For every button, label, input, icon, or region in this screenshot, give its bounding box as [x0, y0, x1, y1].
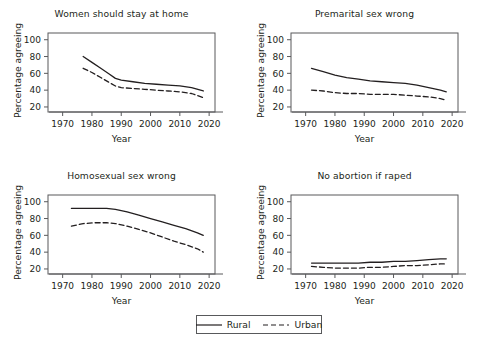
svg-text:20: 20 — [30, 102, 42, 112]
series-line-rural — [312, 68, 447, 92]
svg-text:2010: 2010 — [411, 281, 434, 291]
svg-text:60: 60 — [273, 231, 285, 241]
series-line-urban — [312, 90, 447, 100]
svg-text:1980: 1980 — [80, 119, 103, 129]
svg-text:20: 20 — [273, 264, 285, 274]
svg-text:2000: 2000 — [382, 119, 405, 129]
svg-text:2000: 2000 — [139, 119, 162, 129]
svg-text:20: 20 — [30, 264, 42, 274]
svg-text:60: 60 — [273, 69, 285, 79]
plot-area: 20406080100197019801990200020102020 — [243, 170, 486, 330]
svg-text:1990: 1990 — [110, 119, 133, 129]
chart-panel-no-abortion-if-raped: No abortion if raped Percentage agreeing… — [243, 170, 486, 330]
svg-text:40: 40 — [273, 85, 285, 95]
svg-text:60: 60 — [30, 231, 42, 241]
svg-text:100: 100 — [24, 35, 41, 45]
x-axis-label: Year — [0, 295, 243, 306]
svg-text:1970: 1970 — [51, 281, 74, 291]
svg-text:80: 80 — [273, 52, 285, 62]
svg-text:1980: 1980 — [323, 281, 346, 291]
svg-text:1980: 1980 — [323, 119, 346, 129]
svg-text:40: 40 — [30, 85, 42, 95]
svg-text:2010: 2010 — [168, 119, 191, 129]
svg-text:1980: 1980 — [80, 281, 103, 291]
svg-text:80: 80 — [30, 214, 42, 224]
chart-panel-premarital-sex-wrong: Premarital sex wrong Percentage agreeing… — [243, 8, 486, 168]
plot-area: 20406080100197019801990200020102020 — [0, 170, 243, 330]
chart-panel-homosexual-sex-wrong: Homosexual sex wrong Percentage agreeing… — [0, 170, 243, 330]
svg-text:1990: 1990 — [353, 281, 376, 291]
figure-panel-grid: Women should stay at home Percentage agr… — [0, 0, 487, 346]
chart-legend: Rural Urban — [196, 315, 322, 334]
series-line-rural — [312, 259, 447, 263]
svg-text:2010: 2010 — [168, 281, 191, 291]
solid-line-swatch — [196, 322, 222, 328]
plot-area: 20406080100197019801990200020102020 — [0, 8, 243, 168]
svg-text:1990: 1990 — [110, 281, 133, 291]
svg-text:2000: 2000 — [382, 281, 405, 291]
svg-text:2020: 2020 — [441, 119, 464, 129]
svg-text:1970: 1970 — [294, 281, 317, 291]
svg-text:60: 60 — [30, 69, 42, 79]
svg-text:1990: 1990 — [353, 119, 376, 129]
series-line-rural — [71, 208, 203, 235]
legend-entry-urban[interactable]: Urban — [263, 319, 322, 330]
svg-text:100: 100 — [267, 35, 284, 45]
svg-text:2020: 2020 — [198, 119, 221, 129]
series-line-rural — [83, 57, 203, 91]
svg-text:40: 40 — [273, 247, 285, 257]
svg-text:40: 40 — [30, 247, 42, 257]
legend-label-urban: Urban — [294, 319, 322, 330]
x-axis-label: Year — [243, 133, 486, 144]
svg-text:2010: 2010 — [411, 119, 434, 129]
svg-text:1970: 1970 — [51, 119, 74, 129]
dashed-line-swatch — [263, 322, 289, 328]
svg-text:100: 100 — [24, 197, 41, 207]
chart-panel-women-should-stay-at-home: Women should stay at home Percentage agr… — [0, 8, 243, 168]
legend-entry-rural[interactable]: Rural — [196, 319, 251, 330]
legend-label-rural: Rural — [227, 319, 251, 330]
plot-area: 20406080100197019801990200020102020 — [243, 8, 486, 168]
svg-text:2000: 2000 — [139, 281, 162, 291]
svg-text:2020: 2020 — [198, 281, 221, 291]
series-line-urban — [312, 264, 447, 268]
svg-text:80: 80 — [30, 52, 42, 62]
svg-text:80: 80 — [273, 214, 285, 224]
x-axis-label: Year — [243, 295, 486, 306]
svg-text:1970: 1970 — [294, 119, 317, 129]
svg-text:20: 20 — [273, 102, 285, 112]
x-axis-label: Year — [0, 133, 243, 144]
series-line-urban — [71, 223, 203, 252]
svg-text:100: 100 — [267, 197, 284, 207]
svg-text:2020: 2020 — [441, 281, 464, 291]
